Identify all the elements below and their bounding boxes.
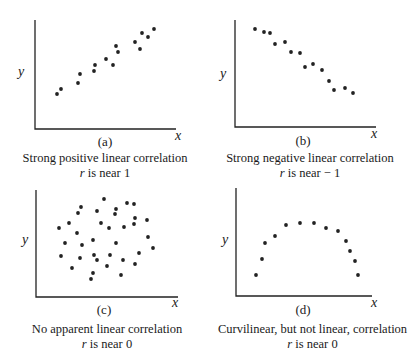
caption-b: Strong negative linear correlation r is … xyxy=(205,151,415,181)
data-point xyxy=(91,238,95,242)
data-point xyxy=(343,86,347,90)
data-point xyxy=(75,231,79,235)
data-point xyxy=(254,273,258,277)
data-point xyxy=(92,253,96,257)
data-point xyxy=(99,221,103,225)
y-axis-label-c: y xyxy=(22,232,28,248)
data-point xyxy=(298,221,302,225)
data-point xyxy=(114,207,118,211)
panel-label-b: (b) xyxy=(283,133,323,149)
data-point xyxy=(78,256,82,260)
data-point xyxy=(298,51,302,55)
data-point xyxy=(137,251,141,255)
y-axis-label-d: y xyxy=(222,232,228,248)
data-point xyxy=(108,253,112,257)
data-point xyxy=(146,235,150,239)
data-point xyxy=(59,87,63,91)
data-point xyxy=(57,226,61,230)
data-point xyxy=(93,63,97,67)
data-point xyxy=(59,254,63,258)
caption-c: No apparent linear correlation r is near… xyxy=(2,322,212,352)
data-point xyxy=(122,225,126,229)
data-point xyxy=(133,262,137,266)
axes-c xyxy=(36,190,178,297)
data-point xyxy=(303,65,307,69)
data-point xyxy=(79,205,83,209)
axes-d xyxy=(236,188,372,296)
data-point xyxy=(260,257,264,261)
data-point xyxy=(348,249,352,253)
data-point xyxy=(70,266,74,270)
data-point xyxy=(95,258,99,262)
data-point xyxy=(76,211,80,215)
data-point xyxy=(55,92,59,96)
y-axis-label-a: y xyxy=(18,64,24,80)
data-point xyxy=(111,63,115,67)
data-point xyxy=(351,91,355,95)
data-point xyxy=(105,264,109,268)
data-point xyxy=(114,44,118,48)
data-point xyxy=(133,216,137,220)
data-point xyxy=(353,259,357,263)
x-axis-label-b: x xyxy=(371,126,377,142)
caption-a: Strong positive linear correlation r is … xyxy=(0,151,210,181)
data-point xyxy=(289,50,293,54)
data-point xyxy=(63,241,67,245)
data-point xyxy=(273,42,277,46)
data-point xyxy=(324,226,328,230)
panel-label-d: (d) xyxy=(283,302,323,318)
data-point xyxy=(92,69,96,73)
data-point xyxy=(152,27,156,31)
data-point xyxy=(332,88,336,92)
x-axis-label-d: x xyxy=(371,295,377,311)
data-point xyxy=(262,30,266,34)
data-point xyxy=(140,31,144,35)
panel-label-c: (c) xyxy=(84,302,124,318)
data-point xyxy=(145,218,149,222)
data-point xyxy=(132,222,136,226)
data-point xyxy=(327,79,331,83)
data-point xyxy=(253,27,257,31)
data-point xyxy=(344,239,348,243)
data-point xyxy=(356,273,360,277)
data-point xyxy=(121,258,125,262)
data-point xyxy=(132,202,136,206)
data-point xyxy=(146,35,150,39)
data-point xyxy=(116,50,120,54)
x-axis-label-c: x xyxy=(172,295,178,311)
data-point xyxy=(138,47,142,51)
data-point xyxy=(119,273,123,277)
panel-label-a: (a) xyxy=(85,134,125,150)
data-point xyxy=(95,209,99,213)
data-point xyxy=(151,246,155,250)
data-point xyxy=(336,229,340,233)
axes-a xyxy=(35,20,176,129)
data-point xyxy=(284,223,288,227)
data-point xyxy=(78,72,82,76)
data-point xyxy=(312,221,316,225)
data-point xyxy=(263,241,267,245)
data-point xyxy=(104,57,108,61)
data-point xyxy=(89,277,93,281)
data-point xyxy=(67,221,71,225)
data-point xyxy=(133,40,137,44)
data-point xyxy=(268,31,272,35)
axes-b xyxy=(235,20,376,127)
data-point xyxy=(102,197,106,201)
data-point xyxy=(320,68,324,72)
data-point xyxy=(283,40,287,44)
data-point xyxy=(107,226,111,230)
data-point xyxy=(113,212,117,216)
data-point xyxy=(125,201,129,205)
data-point xyxy=(114,241,118,245)
caption-d: Curvilinear, but not linear, correlation… xyxy=(205,322,415,352)
data-point xyxy=(80,243,84,247)
data-point xyxy=(273,234,277,238)
x-axis-label-a: x xyxy=(175,128,181,144)
data-point xyxy=(91,271,95,275)
data-point xyxy=(76,81,80,85)
data-point xyxy=(311,62,315,66)
y-axis-label-b: y xyxy=(220,66,226,82)
